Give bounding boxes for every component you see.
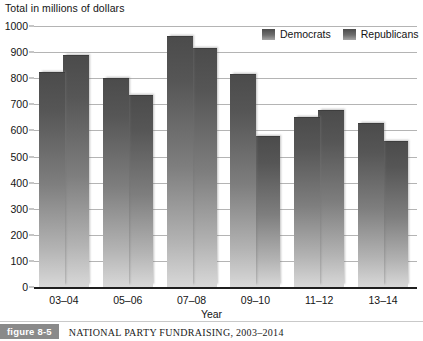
bar-democrats-13-14 — [358, 123, 384, 287]
figure-number-badge: figure 8-5 — [0, 324, 59, 339]
x-axis-title: Year — [0, 308, 423, 320]
legend-label: Republicans — [361, 28, 419, 40]
caption-divider — [0, 321, 423, 322]
bar-group — [39, 26, 89, 287]
legend-swatch-icon — [343, 29, 356, 40]
y-axis-tick-mark — [29, 52, 34, 53]
bar-top-edge — [358, 123, 384, 124]
x-axis-tick-label: 09–10 — [220, 294, 290, 306]
y-axis-tick-label: 400 — [10, 177, 28, 189]
bar-top-edge — [63, 55, 89, 56]
bar-top-edge — [230, 74, 256, 75]
bar-group — [103, 26, 153, 287]
bar-top-edge — [127, 95, 153, 96]
y-axis-tick-label: 800 — [10, 72, 28, 84]
y-axis-tick-mark — [29, 234, 34, 235]
bar-democrats-11-12 — [294, 117, 320, 287]
y-axis-tick-label: 0 — [22, 281, 28, 293]
bar-democrats-03-04 — [39, 72, 65, 287]
bar-democrats-09-10 — [230, 74, 256, 287]
bar-group — [230, 26, 280, 287]
bar-republicans-07-08 — [191, 48, 217, 287]
figure-caption: figure 8-5 NATIONAL PARTY FUNDRAISING, 2… — [0, 324, 423, 341]
y-axis-tick-label: 900 — [10, 46, 28, 58]
x-axis-tick-label: 11–12 — [284, 294, 354, 306]
bar-top-edge — [382, 141, 408, 142]
x-axis-tick-label: 03–04 — [29, 294, 99, 306]
bar-top-edge — [39, 72, 65, 73]
bar-top-edge — [191, 48, 217, 49]
x-axis-tick-label: 13–14 — [348, 294, 418, 306]
legend-item: Democrats — [262, 28, 331, 40]
bar-top-edge — [103, 78, 129, 79]
chart-legend: DemocratsRepublicans — [262, 28, 419, 40]
y-axis-tick-mark — [29, 26, 34, 27]
y-axis-tick-label: 600 — [10, 124, 28, 136]
y-axis-tick-mark — [29, 104, 34, 105]
bar-republicans-05-06 — [127, 95, 153, 287]
bar-top-edge — [254, 136, 280, 137]
y-axis-tick-mark — [29, 208, 34, 209]
x-axis-baseline — [34, 287, 417, 289]
y-axis-tick-mark — [29, 287, 34, 288]
y-axis-tick-mark — [29, 156, 34, 157]
bar-democrats-05-06 — [103, 78, 129, 287]
bar-top-edge — [294, 117, 320, 118]
y-axis-tick-label: 300 — [10, 203, 28, 215]
legend-label: Democrats — [280, 28, 331, 40]
y-axis-tick-mark — [29, 78, 34, 79]
bar-top-edge — [167, 36, 193, 37]
y-axis-title: Total in millions of dollars — [5, 2, 125, 14]
bar-democrats-07-08 — [167, 36, 193, 287]
y-axis-tick-mark — [29, 130, 34, 131]
plot-inner: 01002003004005006007008009001000 — [34, 26, 417, 287]
y-axis-tick-label: 100 — [10, 255, 28, 267]
bar-group — [294, 26, 344, 287]
x-axis-tick-label: 05–06 — [93, 294, 163, 306]
plot-area: 01002003004005006007008009001000 — [34, 26, 417, 287]
y-axis-tick-mark — [29, 182, 34, 183]
y-axis-tick-label: 700 — [10, 98, 28, 110]
figure-caption-text: NATIONAL PARTY FUNDRAISING, 2003–2014 — [59, 324, 284, 341]
y-axis-tick-mark — [29, 260, 34, 261]
legend-item: Republicans — [343, 28, 419, 40]
figure-container: Total in millions of dollars 01002003004… — [0, 0, 423, 341]
bar-republicans-09-10 — [254, 136, 280, 287]
bar-republicans-03-04 — [63, 55, 89, 287]
legend-swatch-icon — [262, 29, 275, 40]
y-axis-tick-label: 1000 — [5, 20, 28, 32]
bar-republicans-11-12 — [318, 110, 344, 287]
bar-group — [358, 26, 408, 287]
x-axis-tick-label: 07–08 — [157, 294, 227, 306]
y-axis-tick-label: 500 — [10, 151, 28, 163]
bar-republicans-13-14 — [382, 141, 408, 287]
bar-group — [167, 26, 217, 287]
bar-top-edge — [318, 110, 344, 111]
y-axis-tick-label: 200 — [10, 229, 28, 241]
